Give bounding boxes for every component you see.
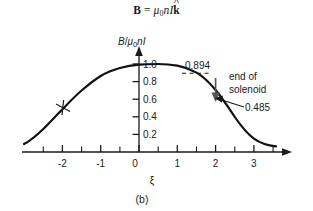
plot-area: 1.0 0.8 0.6 0.4 0.2 -2 -1: [0, 0, 313, 211]
x-tick-label: 3: [251, 158, 257, 169]
leader-line-0485: [220, 100, 244, 108]
x-axis-title: ξ: [150, 175, 155, 187]
end-of-solenoid-label-line2: solenoid: [229, 84, 266, 95]
figure-caption: (b): [136, 193, 149, 205]
end-of-solenoid-label-line1: end of: [229, 71, 257, 82]
y-axis-tick-labels: 1.0 0.8 0.6 0.4 0.2: [143, 59, 157, 140]
y-axis-ticks: [133, 64, 140, 134]
y-tick-label: 0.4: [143, 111, 157, 122]
y-tick-label: 0.6: [143, 94, 157, 105]
x-tick-label: -2: [58, 158, 67, 169]
x-tick-label: -1: [96, 158, 105, 169]
edge-value-label: 0.485: [245, 102, 270, 113]
x-axis-tick-labels: -2 -1 0 1 2 3: [58, 158, 257, 169]
figure-panel-b: B = μ0nI^k B/μ0nI 1.0 0.8 0.6: [0, 0, 313, 211]
x-axis-minor-ticks: [43, 147, 273, 153]
y-tick-label: 0.8: [143, 76, 157, 87]
x-tick-label: 2: [213, 158, 219, 169]
plateau-value-label: 0.894: [185, 60, 210, 71]
x-tick-label: 0: [132, 158, 138, 169]
y-tick-label: 0.2: [143, 129, 157, 140]
x-tick-label: 1: [175, 158, 181, 169]
